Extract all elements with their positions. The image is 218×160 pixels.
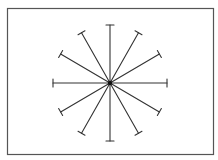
center-hub [108,81,112,85]
spoke-diagram [0,0,218,160]
